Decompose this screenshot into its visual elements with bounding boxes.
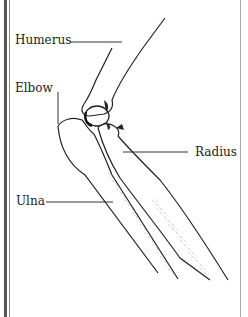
ulna-bone [58,118,178,279]
label-ulna: Ulna [16,194,45,208]
label-radius: Radius [195,145,237,159]
label-elbow: Elbow [15,81,53,95]
humerus-bone [82,18,165,116]
label-humerus: Humerus [15,33,71,47]
elbow-joint [85,106,110,130]
elbow-diagram: Humerus Elbow Radius Ulna [0,0,248,317]
